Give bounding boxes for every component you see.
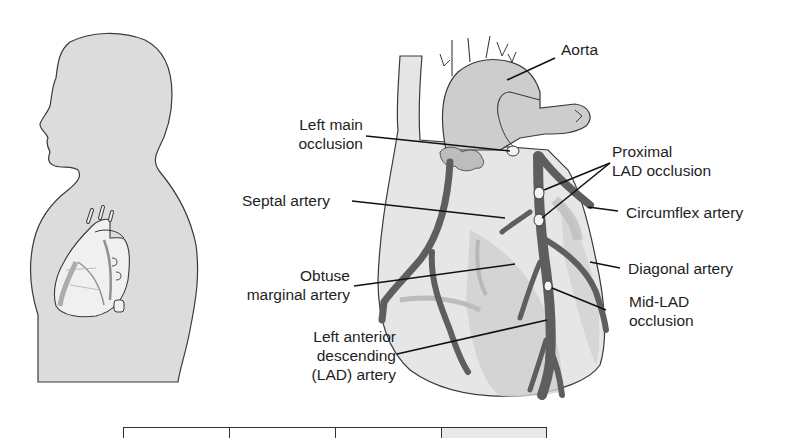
human-silhouette: [31, 33, 198, 382]
proximal-lad-occlusion-marker-2: [534, 214, 544, 226]
label-lad-artery: Left anterior descending (LAD) artery: [290, 327, 396, 384]
label-circumflex-artery: Circumflex artery: [626, 203, 743, 222]
label-proximal-lad-occlusion: Proximal LAD occlusion: [612, 142, 711, 180]
label-aorta: Aorta: [561, 40, 598, 59]
table-cell: [441, 428, 547, 438]
mid-lad-occlusion-marker: [544, 281, 552, 291]
proximal-lad-occlusion-marker-1: [534, 187, 544, 199]
label-mid-lad-occlusion: Mid-LAD occlusion: [629, 292, 694, 330]
table-header-fragment: [123, 427, 547, 438]
label-septal-artery: Septal artery: [242, 191, 330, 210]
label-left-main-occlusion: Left main occlusion: [283, 115, 363, 153]
label-obtuse-marginal-artery: Obtuse marginal artery: [238, 266, 350, 304]
table-cell: [335, 428, 441, 438]
table-cell: [123, 428, 229, 438]
label-diagonal-artery: Diagonal artery: [628, 259, 733, 278]
table-cell: [229, 428, 335, 438]
